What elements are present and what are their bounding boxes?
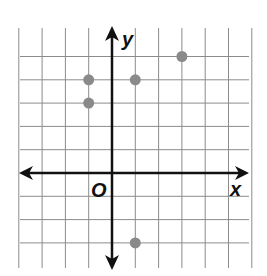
- y-axis: [105, 26, 119, 270]
- data-point: [130, 237, 141, 248]
- origin-label: O: [91, 179, 107, 201]
- data-point: [176, 51, 187, 62]
- x-axis-label: x: [229, 178, 242, 200]
- x-axis: [19, 166, 249, 180]
- data-point: [83, 74, 94, 85]
- grid-lines: [19, 28, 252, 268]
- y-axis-label: y: [121, 28, 134, 50]
- coordinate-plane: y x O: [0, 0, 267, 276]
- data-point: [83, 98, 94, 109]
- data-point: [130, 74, 141, 85]
